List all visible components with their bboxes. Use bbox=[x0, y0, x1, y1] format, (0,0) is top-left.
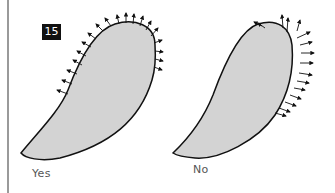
diagram-canvas bbox=[0, 0, 335, 193]
blob-yes bbox=[21, 13, 163, 160]
caption-no: No bbox=[193, 163, 209, 176]
blob-no bbox=[173, 15, 314, 158]
caption-yes: Yes bbox=[32, 167, 51, 180]
